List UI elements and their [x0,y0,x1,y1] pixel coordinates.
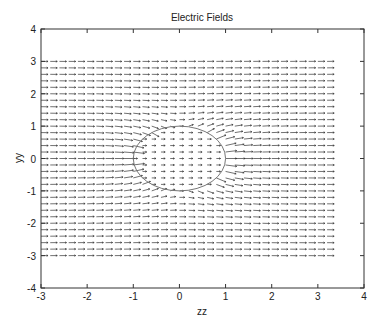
x-axis-label: zz [197,306,207,317]
x-tick-label: -2 [83,291,92,302]
y-tick-label: -2 [27,218,36,229]
y-tick-label: 3 [30,56,36,67]
x-tick-label: 1 [223,291,229,302]
x-tick-label: -3 [37,291,46,302]
y-axis-label: yy [13,153,24,163]
chart-title: Electric Fields [171,12,233,23]
y-tick-label: 0 [30,154,36,165]
axis-ticks: -3-2-101234-4-3-2-101234 [27,24,367,302]
quiver-figure: Electric Fields -3-2-101234-4-3-2-101234… [0,0,383,331]
y-tick-label: 1 [30,121,36,132]
x-tick-label: 2 [269,291,275,302]
y-tick-label: -4 [27,283,36,294]
x-tick-label: 4 [361,291,367,302]
y-tick-label: -3 [27,251,36,262]
field-arrows [41,61,334,257]
y-tick-label: 2 [30,89,36,100]
y-tick-label: 4 [30,24,36,35]
y-tick-label: -1 [27,186,36,197]
x-tick-label: 3 [315,291,321,302]
x-tick-label: 0 [177,291,183,302]
x-tick-label: -1 [129,291,138,302]
